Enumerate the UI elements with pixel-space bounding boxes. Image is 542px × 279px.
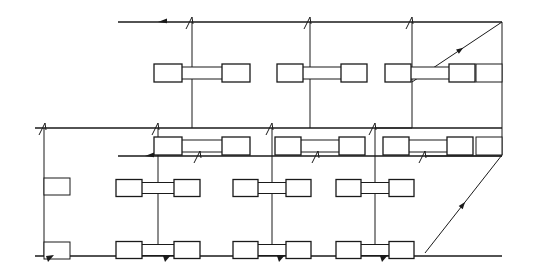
- connector-mid-2: [275, 137, 365, 155]
- connector-low-3-bar: [360, 183, 390, 194]
- connector-base-2-bar: [257, 245, 287, 256]
- connector-low-1-cap-left: [116, 180, 142, 197]
- technical-line-drawing: Structural Bay Framing Line Drawing Mono…: [0, 0, 542, 279]
- connector-mid-1-cap-right: [222, 137, 250, 155]
- connector-mid-2-cap-right: [339, 137, 365, 155]
- connector-top-3-cap-right: [449, 64, 475, 82]
- connector-low-2-bar: [257, 183, 287, 194]
- connector-base-2-cap-right: [286, 242, 311, 259]
- connector-mid-2-bar: [300, 140, 340, 152]
- stub-right-top: [476, 64, 502, 82]
- connector-base-1-cap-left: [116, 242, 142, 259]
- connector-mid-1-cap-left: [154, 137, 182, 155]
- connector-top-1-cap-right: [222, 64, 250, 82]
- connector-low-2: [233, 180, 311, 197]
- connector-top-1: [154, 64, 250, 82]
- connector-mid-2-cap-left: [275, 137, 301, 155]
- connector-mid-1-bar: [181, 140, 223, 152]
- connector-top-1-bar: [181, 67, 223, 79]
- connector-low-2-cap-left: [233, 180, 258, 197]
- connector-base-1: [116, 242, 200, 259]
- connector-top-3-bar: [410, 67, 450, 79]
- connector-low-1-cap-right: [174, 180, 200, 197]
- stub-right-mid: [476, 137, 502, 155]
- connector-top-2-bar: [302, 67, 342, 79]
- connector-mid-3-cap-right: [447, 137, 473, 155]
- connector-low-1: [116, 180, 200, 197]
- connector-top-2: [277, 64, 367, 82]
- connector-top-3-cap-left: [385, 64, 411, 82]
- connector-base-1-bar: [141, 245, 175, 256]
- connector-top-1-cap-left: [154, 64, 182, 82]
- connector-base-1-cap-right: [174, 242, 200, 259]
- connector-low-1-bar: [141, 183, 175, 194]
- stub-left-mid: [44, 178, 70, 195]
- connector-base-2-cap-left: [233, 242, 258, 259]
- drawing-canvas: Structural Bay Framing Line Drawing Mono…: [0, 0, 542, 279]
- connector-low-3: [336, 180, 414, 197]
- connector-base-3: [336, 242, 414, 259]
- connector-low-3-cap-left: [336, 180, 361, 197]
- connector-mid-1: [154, 137, 250, 155]
- connector-low-3-cap-right: [389, 180, 414, 197]
- connector-base-3-cap-right: [389, 242, 414, 259]
- connector-mid-3: [383, 137, 473, 155]
- connector-base-2: [233, 242, 311, 259]
- connector-low-2-cap-right: [286, 180, 311, 197]
- connector-top-3: [385, 64, 475, 82]
- connector-top-2-cap-right: [341, 64, 367, 82]
- connector-top-2-cap-left: [277, 64, 303, 82]
- connector-mid-3-cap-left: [383, 137, 409, 155]
- connector-base-3-cap-left: [336, 242, 361, 259]
- connector-base-3-bar: [360, 245, 390, 256]
- connector-mid-3-bar: [408, 140, 448, 152]
